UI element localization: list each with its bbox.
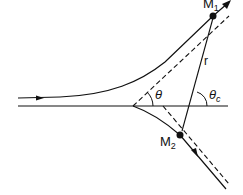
label-theta: θ [155,88,162,101]
label-m1: M1 [203,0,219,10]
diagram-lines [0,0,243,195]
particle-m2 [177,132,184,139]
scattering-diagram: M1 M2 r θ θc [0,0,243,195]
particle-m1 [210,13,217,20]
label-m2: M2 [160,135,176,148]
trajectory-m2 [133,106,226,189]
label-theta-c: θc [209,88,221,101]
separation-r-line [182,18,213,131]
label-r: r [204,55,208,67]
incoming-arrow-icon [36,96,44,101]
trajectory-m1 [18,3,228,98]
theta-c-arc [197,92,207,106]
theta-arc [147,92,153,106]
